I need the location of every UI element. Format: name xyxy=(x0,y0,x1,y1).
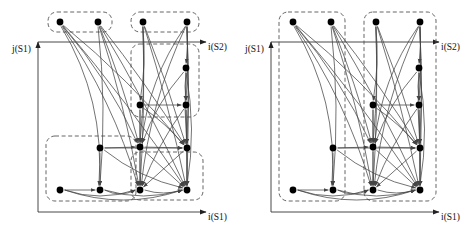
axis-label-iS1: i(S1) xyxy=(441,212,460,223)
edge-arrow xyxy=(65,190,183,200)
right-diagram-panel: j(S1)i(S2)i(S1) xyxy=(233,0,465,237)
edge-arrow xyxy=(294,26,333,185)
left-diagram-panel: j(S1)i(S2)i(S1) xyxy=(0,0,232,237)
edge-arrow xyxy=(296,25,416,145)
graph-node xyxy=(95,19,102,26)
figure-root: j(S1)i(S2)i(S1) j(S1)i(S2)i(S1) xyxy=(0,0,465,237)
graph-node xyxy=(416,102,423,109)
graph-node xyxy=(370,187,377,194)
graph-node xyxy=(330,145,337,152)
nodes-group xyxy=(290,19,424,194)
graph-node xyxy=(290,187,297,194)
dashed-group-box xyxy=(279,12,345,201)
graph-node xyxy=(137,144,144,151)
edge-arrow xyxy=(296,26,417,187)
graph-node xyxy=(416,65,423,72)
edge-arrow xyxy=(145,190,183,193)
edge-arrow xyxy=(61,26,100,185)
edge-arrow xyxy=(99,26,138,142)
graph-node xyxy=(417,187,424,194)
left-diagram-canvas: j(S1)i(S2)i(S1) xyxy=(0,0,232,237)
graph-node xyxy=(184,19,191,26)
edge-arrow xyxy=(298,190,416,200)
edges-group xyxy=(294,25,424,200)
edge-arrow xyxy=(145,26,186,143)
axis-label-iS2: i(S2) xyxy=(441,42,460,53)
graph-node xyxy=(417,145,424,152)
edges-group xyxy=(61,25,191,200)
graph-node xyxy=(184,187,191,194)
graph-node xyxy=(184,145,191,152)
edge-arrow xyxy=(378,26,419,143)
graph-node xyxy=(183,65,190,72)
edge-arrow xyxy=(144,26,186,185)
edge-arrow xyxy=(377,26,419,185)
graph-node xyxy=(97,145,104,152)
graph-node xyxy=(373,19,380,26)
edge-arrow xyxy=(375,26,419,142)
axis-label-jS1: j(S1) xyxy=(11,44,31,55)
edge-arrow xyxy=(63,26,184,187)
graph-node xyxy=(290,19,297,26)
axis-label-iS1: i(S1) xyxy=(208,212,227,223)
graph-node xyxy=(140,19,147,26)
graph-node xyxy=(183,102,190,109)
edge-arrow xyxy=(331,27,336,186)
axis-label-jS1: j(S1) xyxy=(244,44,264,55)
graph-node xyxy=(137,187,144,194)
graph-node xyxy=(57,19,64,26)
graph-node xyxy=(370,144,377,151)
axis-label-iS2: i(S2) xyxy=(208,42,227,53)
graph-node xyxy=(137,102,144,109)
graph-node xyxy=(417,19,424,26)
right-diagram-canvas: j(S1)i(S2)i(S1) xyxy=(233,0,465,237)
graph-node xyxy=(370,102,377,109)
graph-node xyxy=(57,187,64,194)
graph-node xyxy=(330,187,337,194)
graph-node xyxy=(97,187,104,194)
edge-arrow xyxy=(332,26,371,142)
nodes-group xyxy=(57,19,191,194)
edge-arrow xyxy=(378,190,416,193)
graph-node xyxy=(328,19,335,26)
edge-arrow xyxy=(98,27,103,186)
edge-arrow xyxy=(63,25,183,145)
